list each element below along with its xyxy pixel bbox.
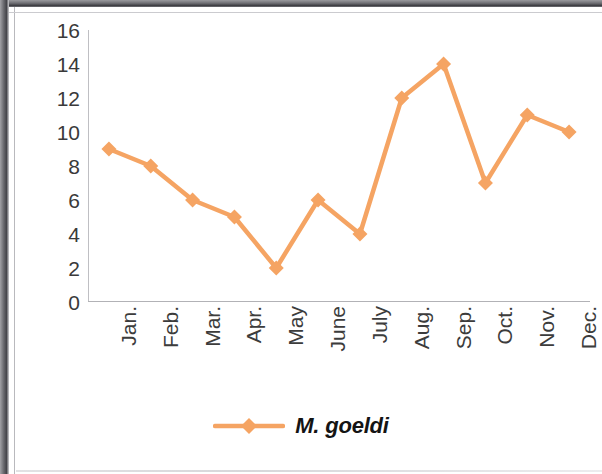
- x-tick-nov: Nov.: [536, 306, 557, 402]
- x-axis-tick-labels: Jan.Feb.Mar.Apr.MayJuneJulyAug.Sep.Oct.N…: [88, 306, 590, 402]
- data-series-layer: [88, 30, 590, 302]
- data-point-jan: [101, 142, 116, 157]
- legend-label-m-goeldi: M. goeldi: [295, 413, 389, 439]
- x-tick-july: July: [369, 306, 390, 402]
- series-line-m-goeldi: [109, 64, 569, 268]
- chart-legend: M. goeldi: [0, 404, 602, 448]
- plot-area: [88, 30, 590, 302]
- y-tick-14: 14: [24, 54, 80, 75]
- y-tick-12: 12: [24, 88, 80, 109]
- x-tick-aug: Aug.: [411, 306, 432, 402]
- y-axis-tick-labels: 1614121086420: [24, 22, 80, 312]
- legend-marker-icon: [213, 416, 285, 436]
- data-point-dec: [562, 125, 577, 140]
- y-tick-8: 8: [24, 156, 80, 177]
- x-tick-june: June: [327, 306, 348, 402]
- y-tick-2: 2: [24, 258, 80, 279]
- x-tick-dec: Dec.: [578, 306, 599, 402]
- y-tick-0: 0: [24, 292, 80, 313]
- y-tick-10: 10: [24, 122, 80, 143]
- x-tick-jan: Jan.: [118, 306, 139, 402]
- x-tick-oct: Oct.: [494, 306, 515, 402]
- x-tick-feb: Feb.: [160, 306, 181, 402]
- x-tick-mar: Mar.: [202, 306, 223, 402]
- x-tick-sep: Sep.: [453, 306, 474, 402]
- y-tick-6: 6: [24, 190, 80, 211]
- y-tick-16: 16: [24, 20, 80, 41]
- x-tick-may: May: [285, 306, 306, 402]
- y-tick-4: 4: [24, 224, 80, 245]
- line-chart: 1614121086420 Jan.Feb.Mar.Apr.MayJuneJul…: [0, 0, 602, 474]
- x-tick-apr: Apr.: [243, 306, 264, 402]
